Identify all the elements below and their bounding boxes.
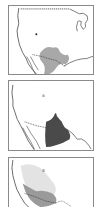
range-map-3: δ <box>8 157 94 207</box>
coastline <box>17 8 36 74</box>
locality-dot <box>35 33 37 35</box>
map-3-graphic: δ <box>9 158 93 207</box>
range-shading <box>45 113 70 147</box>
map-2-graphic: δ <box>9 81 93 150</box>
svg-text:δ: δ <box>42 168 45 173</box>
great-lakes <box>70 9 88 31</box>
svg-text:δ: δ <box>42 93 45 98</box>
range-map-2: δ <box>8 80 94 151</box>
coastline <box>12 85 34 150</box>
range-map-1 <box>8 5 94 75</box>
gulf-coast <box>68 130 91 149</box>
mexico-border <box>25 122 46 128</box>
range-shading <box>40 47 70 74</box>
map-1-graphic <box>9 6 93 74</box>
